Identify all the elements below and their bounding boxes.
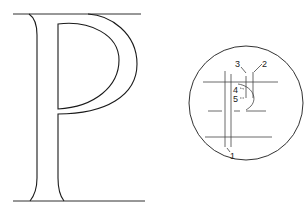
letter-p-outline xyxy=(13,14,145,201)
label-2: 2 xyxy=(262,59,267,69)
detail-circle xyxy=(189,46,303,160)
pointer-2 xyxy=(254,64,262,72)
pointer-3 xyxy=(241,67,246,73)
detail-magnifier xyxy=(189,46,303,160)
letter-construction-diagram: 3 2 4 5 1 xyxy=(0,0,306,213)
label-5: 5 xyxy=(233,94,238,104)
p-bowl-counter xyxy=(58,23,119,109)
detail-labels: 3 2 4 5 1 xyxy=(230,59,267,161)
p-outer-contour xyxy=(29,14,137,201)
label-3: 3 xyxy=(235,59,240,69)
label-1: 1 xyxy=(230,151,235,161)
pointer-4 xyxy=(240,88,244,89)
